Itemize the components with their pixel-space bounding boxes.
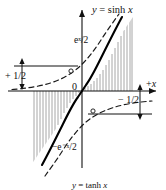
y-axis-arrowhead xyxy=(79,10,85,17)
sinh-figure: y = sinh x eˣ/2 −e⁻ˣ/2 0 + 1/2 − 1/2 +x … xyxy=(0,0,166,190)
offset-measure-right-label: − 1/2 xyxy=(118,95,139,105)
x-axis-label: +x xyxy=(146,79,156,89)
origin-label: 0 xyxy=(72,82,77,92)
curve-title-label: y = sinh x xyxy=(92,5,133,16)
offset-measure-left-label: + 1/2 xyxy=(5,71,26,81)
asymptote-lower-label: −e⁻ˣ/2 xyxy=(52,143,77,153)
plot-canvas xyxy=(0,0,166,190)
asymptote-upper-label: eˣ/2 xyxy=(74,36,88,46)
lower-hatch-region xyxy=(34,91,79,166)
intersection-marker-lower xyxy=(91,109,95,113)
intersection-marker-upper xyxy=(69,69,73,73)
figure-caption: y = tanh x xyxy=(72,181,107,190)
